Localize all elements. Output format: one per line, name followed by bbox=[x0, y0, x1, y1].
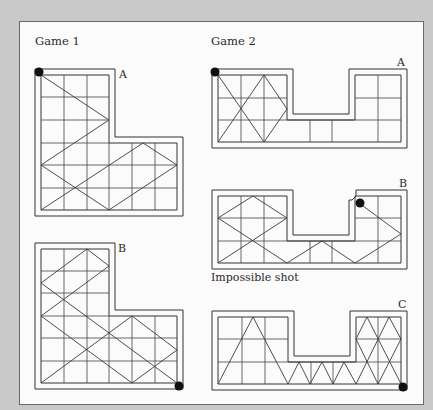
caption-impossible-shot: Impossible shot bbox=[211, 272, 299, 283]
heading-game1: Game 1 bbox=[35, 36, 80, 48]
playing-area-border bbox=[218, 75, 401, 142]
table-label-game1-a: A bbox=[119, 69, 127, 80]
ball-icon bbox=[399, 383, 408, 392]
table-game2-a bbox=[211, 68, 408, 149]
ball-icon bbox=[356, 199, 365, 208]
table-game1-b bbox=[35, 243, 184, 391]
ball-path bbox=[218, 196, 401, 263]
table-game2-b bbox=[212, 190, 407, 269]
table-label-game2-b: B bbox=[399, 178, 407, 189]
ball-icon bbox=[211, 68, 220, 77]
table-label-game1-b: B bbox=[118, 243, 126, 254]
grid-lines bbox=[218, 75, 401, 142]
billiards-diagram bbox=[0, 0, 433, 410]
grid-lines bbox=[218, 196, 401, 263]
heading-game2: Game 2 bbox=[211, 36, 256, 48]
table-game2-c bbox=[212, 311, 408, 392]
ball-path bbox=[218, 75, 287, 142]
ball-icon bbox=[175, 382, 184, 391]
ball-path bbox=[218, 317, 401, 384]
ball-icon bbox=[35, 68, 44, 77]
table-label-game2-a: A bbox=[397, 57, 405, 68]
playing-area-border bbox=[218, 196, 401, 263]
table-game1-a bbox=[35, 68, 184, 217]
table-label-game2-c: C bbox=[398, 299, 406, 310]
